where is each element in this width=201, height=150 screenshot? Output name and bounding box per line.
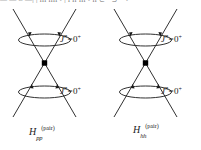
pp-lower-spin-parity-label: Jπ=0+ — [60, 85, 81, 96]
hh-caption-subscript: hh — [140, 132, 146, 139]
pp-interaction-vertex — [42, 60, 47, 65]
hh-diagram — [114, 9, 177, 117]
pp-caption-subscript: pp — [36, 134, 42, 141]
hh-hamiltonian-caption: Hhh(pair) — [133, 124, 160, 138]
pp-upper-spin-parity-label: Jπ=0+ — [60, 33, 81, 44]
hh-lower-value: 0 — [174, 86, 179, 96]
hh-caption-superscript: (pair) — [145, 123, 158, 129]
hh-upper-spin-parity-label: Jπ=0+ — [161, 33, 182, 44]
pp-diagram — [13, 9, 76, 117]
hh-lower-spin-parity-label: Jπ=0+ — [161, 85, 182, 96]
figure-page: — — ≈ —| | ııı ıııı • | ı ıı ııı • ıı ⊂ … — [0, 0, 201, 150]
pp-hamiltonian-caption: Hpp(pair) — [29, 126, 56, 140]
pp-lower-value-superscript: + — [78, 86, 81, 92]
hh-upper-value-superscript: + — [179, 34, 182, 40]
pp-caption-superscript: (pair) — [41, 125, 54, 131]
pp-upper-value-superscript: + — [78, 34, 81, 40]
pp-upper-value: 0 — [73, 34, 78, 44]
hh-interaction-vertex — [143, 60, 148, 65]
pp-lower-value: 0 — [73, 86, 78, 96]
hh-upper-value: 0 — [174, 34, 179, 44]
hh-lower-value-superscript: + — [179, 86, 182, 92]
